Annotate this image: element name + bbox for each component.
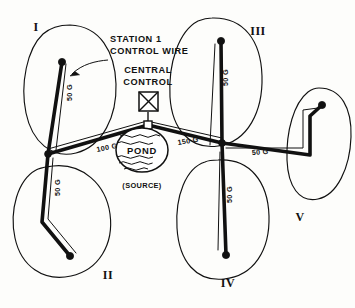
station-wire-callout-line1: STATION 1 [110,34,162,44]
station-blob-III [170,18,262,147]
terminal-node-station-IV [222,251,229,258]
station-gauge-label-IV: 50 G [225,186,234,203]
station-wire-callout-leader [72,60,108,74]
station-numeral-IV: IV [221,276,235,290]
station-gauge-label-II: 50 G [53,179,62,196]
station-wire-callout-line2: CONTROL WIRE [110,46,188,56]
trunk-gauge-label-150g: 150 G [177,135,199,147]
diagram-canvas: STATION 1 CONTROL WIRE CENTRAL CONTROL P… [0,0,355,308]
station-gauge-label-III: 50 G [221,69,230,86]
junction-node-east [219,140,226,147]
return-wire-II [48,158,76,253]
control-wire-station-III [221,41,222,143]
terminal-node-station-II [66,252,73,259]
station-numeral-I: I [33,20,38,34]
central-control-label-line2: CONTROL [123,77,172,87]
terminal-node-station-I [58,58,65,65]
station-network-diagram: STATION 1 CONTROL WIRE CENTRAL CONTROL P… [0,0,355,308]
pond-label: POND [127,145,157,156]
central-control-label-line1: CENTRAL [124,65,172,75]
return-wire-IV [218,152,220,250]
trunk-gauge-label-50g-station-V: 50 G [252,147,269,157]
station-numeral-V: V [295,210,304,224]
station-gauge-label-I: 50 G [65,84,74,101]
junction-node-west [45,151,52,158]
station-wire-callout-arrowhead [70,71,80,76]
station-numeral-II: II [103,268,113,282]
terminal-node-station-III [217,37,224,44]
terminal-node-station-V [318,101,325,108]
station-numeral-III: III [250,24,266,38]
return-wire-III [210,44,215,145]
return-wire-V [226,108,318,148]
control-wire-station-I [48,62,62,154]
trunk-gauge-label-100g: 100 G [96,141,119,154]
source-label: (SOURCE) [122,181,162,190]
